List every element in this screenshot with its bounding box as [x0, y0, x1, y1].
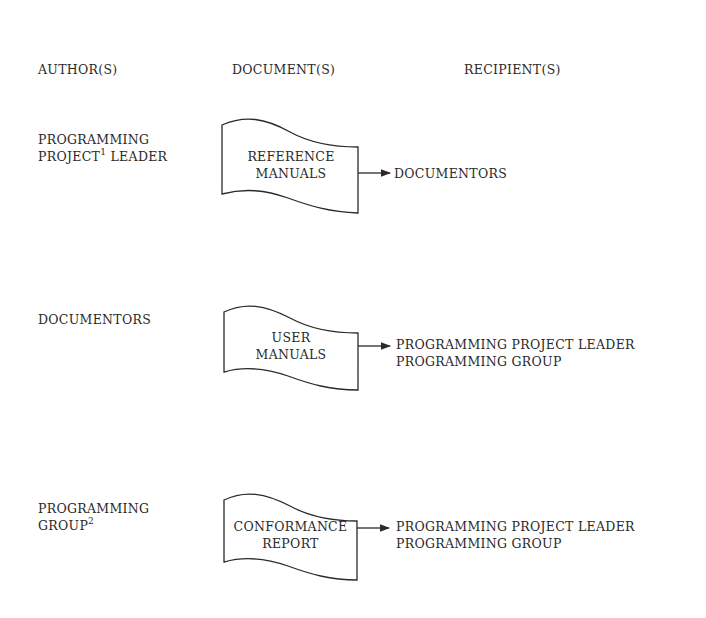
footnote-marker: 2 [88, 516, 94, 526]
author-documentors: DOCUMENTORS [38, 311, 151, 328]
recipient: PROGRAMMING GROUP [396, 354, 562, 369]
document-reference-manuals: REFERENCE MANUALS [224, 148, 358, 182]
recipient-list: PROGRAMMING PROJECT LEADER PROGRAMMING G… [396, 518, 635, 552]
recipient: PROGRAMMING PROJECT LEADER [396, 519, 635, 534]
recipient: DOCUMENTORS [394, 166, 507, 181]
author-programming-project-leader: PROGRAMMING PROJECT1 LEADER [38, 131, 167, 165]
document-user-manuals: USER MANUALS [224, 329, 358, 363]
document-conformance-report: CONFORMANCE REPORT [224, 518, 357, 552]
recipient-list: DOCUMENTORS [394, 165, 507, 182]
recipient-list: PROGRAMMING PROJECT LEADER PROGRAMMING G… [396, 336, 635, 370]
recipient: PROGRAMMING PROJECT LEADER [396, 337, 635, 352]
recipient: PROGRAMMING GROUP [396, 536, 562, 551]
author-programming-group: PROGRAMMING GROUP2 [38, 500, 149, 534]
